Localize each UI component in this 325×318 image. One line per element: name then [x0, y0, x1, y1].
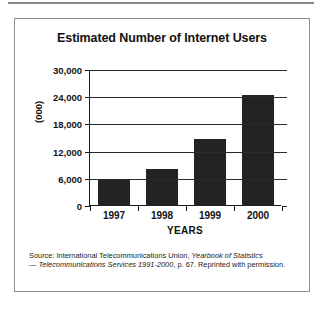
- page-top-rule: [8, 2, 314, 4]
- y-axis-tick-right: [282, 152, 287, 153]
- y-axis-tick-label: 30,000: [53, 65, 82, 76]
- bar: [146, 169, 178, 206]
- y-axis-tick-label: 0: [77, 201, 82, 212]
- x-axis-tick-label: 1999: [199, 210, 221, 221]
- gridline: [90, 124, 282, 125]
- bar: [194, 139, 226, 206]
- x-axis-title: YEARS: [89, 225, 281, 236]
- source-suffix: , p. 67. Reprinted with permission.: [173, 260, 285, 269]
- plot-area: 1997199819992000 06,00012,00018,00024,00…: [89, 70, 281, 206]
- bars-layer: [90, 70, 282, 206]
- figure-container: Estimated Number of Internet Users (000)…: [14, 18, 310, 292]
- source-prefix: Source: International Telecommunications…: [29, 251, 192, 260]
- x-axis-tick: [90, 206, 91, 211]
- source-italic-title: Yearbook of Statistics: [192, 251, 263, 260]
- gridline: [90, 70, 282, 71]
- gridline: [90, 152, 282, 153]
- gridline: [90, 179, 282, 180]
- y-axis-tick-label: 24,000: [53, 92, 82, 103]
- x-axis-tick: [186, 206, 187, 211]
- y-axis-tick: [85, 152, 91, 153]
- x-axis-tick-label: 1998: [151, 210, 173, 221]
- x-axis-tick-label: 2000: [247, 210, 269, 221]
- source-caption: Source: International Telecommunications…: [29, 251, 297, 269]
- y-axis-tick-label: 6,000: [58, 173, 82, 184]
- y-axis-tick-right: [282, 70, 287, 71]
- y-axis-tick-right: [282, 124, 287, 125]
- x-axis-tick-label: 1997: [103, 210, 125, 221]
- bar: [98, 180, 130, 206]
- y-axis-tick: [85, 124, 91, 125]
- y-axis-tick-right: [282, 179, 287, 180]
- y-axis-tick-label: 12,000: [53, 146, 82, 157]
- y-axis-tick: [85, 97, 91, 98]
- y-axis-tick-right: [282, 97, 287, 98]
- gridline: [90, 97, 282, 98]
- x-axis-tick: [282, 206, 283, 211]
- source-italic-subtitle: Telecommunications Services 1991-2000: [38, 260, 173, 269]
- x-axis-tick: [138, 206, 139, 211]
- y-axis-tick: [85, 179, 91, 180]
- bar: [242, 95, 274, 206]
- y-axis-title: (000): [33, 101, 44, 123]
- x-axis-tick: [234, 206, 235, 211]
- y-axis-tick-label: 18,000: [53, 119, 82, 130]
- y-axis-tick: [85, 70, 91, 71]
